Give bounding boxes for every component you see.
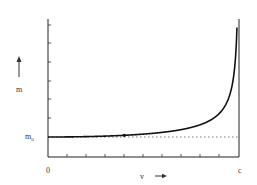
m0-label: m0 [25,132,34,142]
c-label: c [238,166,242,175]
origin-label: 0 [46,166,50,175]
x-axis-arrow-icon [155,174,167,178]
marked-point [123,134,126,137]
chart-canvas: m m0 0 c v [0,0,257,185]
y-axis-label: m [16,85,23,94]
y-axis-arrow-icon [17,56,22,77]
x-axis-label: v [140,172,144,181]
mass-curve [48,27,237,137]
